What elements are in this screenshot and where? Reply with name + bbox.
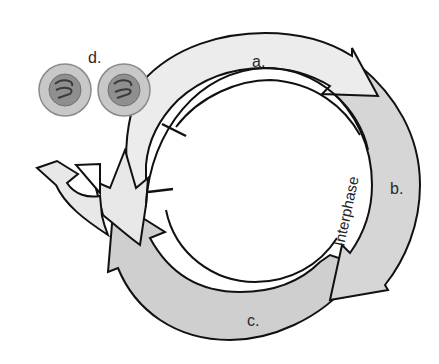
label-d: d. (88, 49, 101, 66)
daughter-cell-1 (39, 64, 91, 116)
arrow-d-notch (76, 164, 100, 193)
arrow-c (108, 200, 360, 340)
label-b: b. (390, 180, 403, 197)
label-interphase: Interphase (330, 175, 361, 248)
checkpoint-bar-2 (148, 189, 173, 192)
cell-cycle-diagram: a. b. c. d. Interphase (0, 0, 439, 364)
daughter-cell-2 (98, 64, 150, 116)
label-a: a. (252, 53, 265, 70)
label-c: c. (247, 312, 259, 329)
